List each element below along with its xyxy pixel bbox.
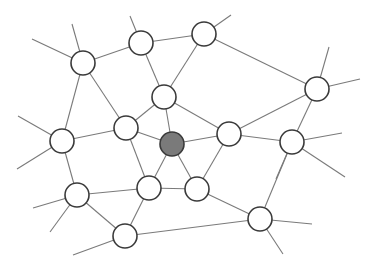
node-k: [65, 183, 89, 207]
node-o: [113, 224, 137, 248]
edge-c-h: [204, 34, 317, 89]
node-i: [280, 130, 304, 154]
edge-o-n: [125, 219, 260, 236]
edges: [62, 34, 317, 236]
node-m: [185, 177, 209, 201]
node-n: [248, 207, 272, 231]
edge-g-h: [229, 89, 317, 134]
node-h: [305, 77, 329, 101]
highlighted-node-f: [160, 132, 184, 156]
node-d: [152, 85, 176, 109]
node-l: [137, 176, 161, 200]
node-g: [217, 122, 241, 146]
node-a: [71, 51, 95, 75]
node-b: [129, 31, 153, 55]
node-c: [192, 22, 216, 46]
node-e: [114, 116, 138, 140]
network-diagram: [0, 0, 378, 268]
node-j: [50, 129, 74, 153]
